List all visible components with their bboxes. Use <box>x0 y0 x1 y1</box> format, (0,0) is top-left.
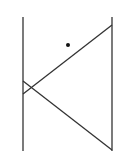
point-dot <box>66 43 70 47</box>
upper-diagonal-line <box>23 25 112 94</box>
lines-group <box>23 17 112 151</box>
geometry-diagram <box>0 0 128 151</box>
points-group <box>66 43 70 47</box>
lower-diagonal-line <box>23 81 112 150</box>
